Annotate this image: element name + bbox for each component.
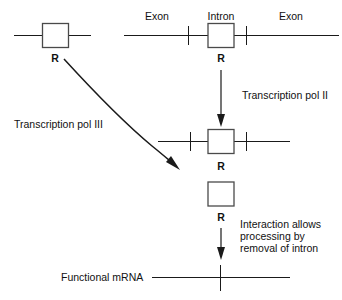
- r-product-box: [208, 182, 234, 206]
- label-transcription-pol-ii: Transcription pol II: [242, 89, 328, 101]
- gene-top-left: R: [14, 24, 91, 65]
- arrow-processing-head: [217, 247, 225, 260]
- arrow-transcription-pol-iii: Transcription pol III: [14, 59, 180, 170]
- label-interaction-line2: processing by: [240, 230, 306, 242]
- label-transcription-pol-iii: Transcription pol III: [14, 118, 103, 130]
- arrow-pol-ii-head: [217, 114, 225, 127]
- label-interaction-line1: Interaction allows: [240, 218, 321, 230]
- arrow-processing: Interaction allows processing by removal…: [217, 218, 321, 260]
- intron-box-transcript: [208, 130, 234, 154]
- label-r-top-right: R: [217, 52, 225, 64]
- arrow-pol-iii-curve: [64, 59, 176, 166]
- label-r-box-below: R: [217, 211, 225, 223]
- gene-top-right: Exon Intron Exon R: [124, 10, 339, 64]
- arrow-transcription-pol-ii: Transcription pol II: [217, 70, 328, 127]
- label-exon-left: Exon: [145, 10, 169, 22]
- intron-box-top-right: [208, 24, 234, 48]
- r-element-box-top-left: [43, 24, 69, 48]
- gene-middle-transcript: R: [158, 130, 290, 173]
- label-functional-mrna: Functional mRNA: [61, 271, 143, 283]
- label-intron: Intron: [208, 10, 235, 22]
- arrow-pol-iii-head: [166, 156, 180, 170]
- label-r-top-left: R: [51, 52, 59, 64]
- label-interaction-line3: removal of intron: [240, 242, 318, 254]
- r-product-group: R: [208, 182, 234, 223]
- diagram-canvas: R Exon Intron Exon R Transcription pol I…: [0, 0, 342, 300]
- label-r-middle: R: [217, 160, 225, 172]
- functional-mrna-group: Functional mRNA: [61, 265, 290, 291]
- transcription-pathway-diagram: R Exon Intron Exon R Transcription pol I…: [0, 0, 342, 300]
- label-exon-right: Exon: [279, 10, 303, 22]
